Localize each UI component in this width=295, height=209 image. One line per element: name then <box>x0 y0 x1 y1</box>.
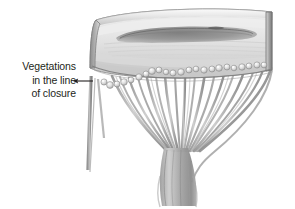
heart-valve-illustration <box>0 0 295 209</box>
vegetations-label: Vegetations in the line of closure <box>4 60 76 101</box>
label-line-3: of closure <box>4 87 76 101</box>
label-line-1: Vegetations <box>4 60 76 74</box>
label-line-2: in the line <box>4 74 76 88</box>
figure-canvas: Vegetations in the line of closure <box>0 0 295 209</box>
leader-arrow-icon <box>72 74 94 88</box>
